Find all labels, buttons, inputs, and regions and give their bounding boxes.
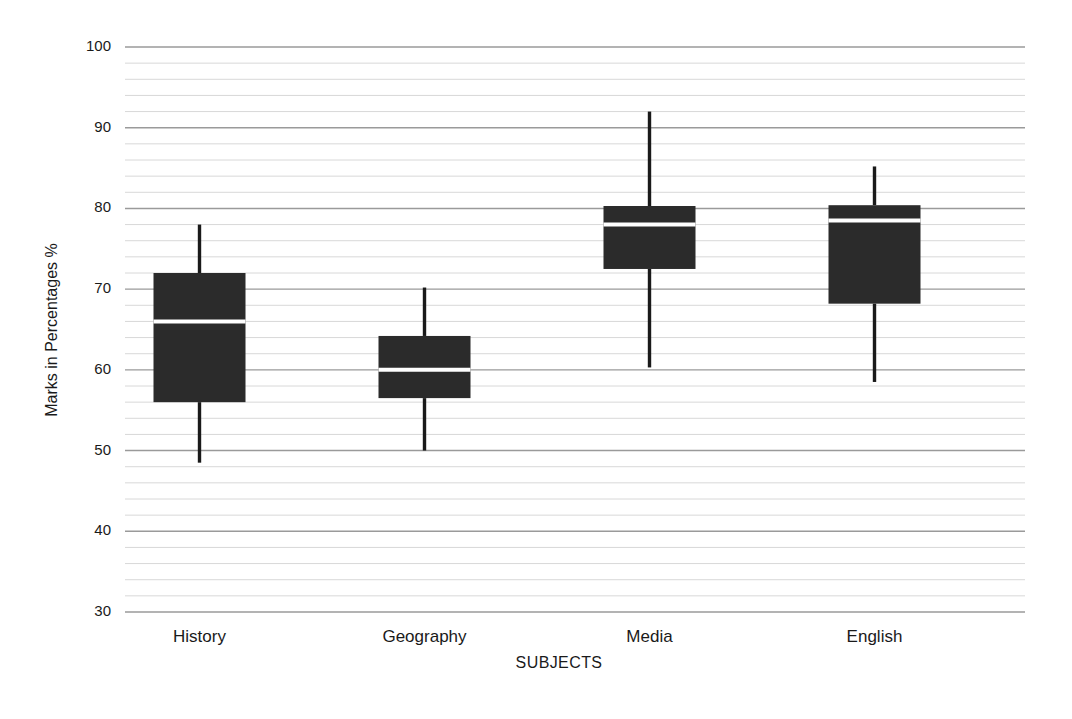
- chart-canvas: 30405060708090100 HistoryGeographyMediaE…: [0, 0, 1072, 719]
- box-plot-series: [154, 112, 921, 463]
- box-iqr: [604, 206, 696, 269]
- x-axis-tick-label: Geography: [382, 627, 467, 646]
- box-iqr: [154, 273, 246, 402]
- y-axis-title: Marks in Percentages %: [43, 243, 60, 416]
- y-axis-tick-label: 30: [94, 602, 111, 619]
- x-axis-tick-label: Media: [626, 627, 673, 646]
- x-axis-tick-labels: HistoryGeographyMediaEnglish: [173, 627, 902, 646]
- box-plot-item: [829, 166, 921, 382]
- box-plot-item: [379, 288, 471, 451]
- box-iqr: [379, 336, 471, 398]
- box-plot-item: [154, 225, 246, 463]
- box-plot-chart: 30405060708090100 HistoryGeographyMediaE…: [0, 0, 1072, 719]
- y-axis-tick-label: 90: [94, 118, 111, 135]
- y-axis-tick-labels: 30405060708090100: [86, 37, 111, 619]
- minor-gridlines: [125, 63, 1025, 596]
- y-axis-tick-label: 100: [86, 37, 111, 54]
- x-axis-title: SUBJECTS: [516, 654, 603, 671]
- y-axis-tick-label: 50: [94, 441, 111, 458]
- y-axis-tick-label: 70: [94, 279, 111, 296]
- y-axis-tick-label: 60: [94, 360, 111, 377]
- y-axis-tick-label: 40: [94, 521, 111, 538]
- x-axis-tick-label: English: [847, 627, 903, 646]
- major-gridlines: [125, 47, 1025, 612]
- y-axis-tick-label: 80: [94, 198, 111, 215]
- box-plot-item: [604, 112, 696, 368]
- x-axis-tick-label: History: [173, 627, 226, 646]
